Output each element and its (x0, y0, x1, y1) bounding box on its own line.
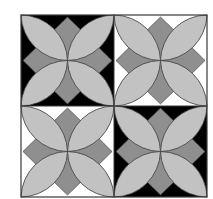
tile-0-0 (21, 15, 114, 106)
tile-0-1 (114, 15, 207, 106)
quilt-svg (20, 14, 208, 198)
tile-1-0 (21, 106, 114, 197)
tile-1-1 (114, 106, 207, 197)
quilt-pattern (20, 14, 208, 199)
